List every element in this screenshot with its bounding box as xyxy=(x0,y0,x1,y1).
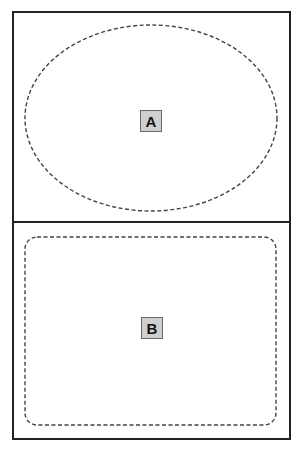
region-label-a: A xyxy=(140,110,162,132)
region-label-b-text: B xyxy=(147,321,158,336)
diagram-canvas: A B xyxy=(0,0,303,456)
outer-frame xyxy=(13,12,290,439)
region-label-a-text: A xyxy=(146,114,157,129)
diagram-svg xyxy=(0,0,303,456)
region-label-b: B xyxy=(141,317,163,339)
